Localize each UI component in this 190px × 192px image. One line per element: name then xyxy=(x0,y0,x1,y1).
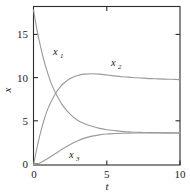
curve-label-x2: x xyxy=(110,57,116,68)
x-tick-label-5: 5 xyxy=(104,168,110,180)
curve-label-x1: x xyxy=(52,46,58,57)
curve-label-x2-subscript: 2 xyxy=(118,63,122,71)
curve-label-x3-subscript: 3 xyxy=(75,155,80,163)
y-tick-label-15: 15 xyxy=(17,28,29,40)
y-tick-label-10: 10 xyxy=(17,72,29,84)
chart-figure: 0 5 10 15 0 5 10 t x x 1 x 2 x 3 xyxy=(0,0,190,192)
y-tick-label-0: 0 xyxy=(23,158,29,170)
curve-label-x1-subscript: 1 xyxy=(60,52,64,60)
y-axis-title: x xyxy=(1,87,13,93)
x-tick-label-0: 0 xyxy=(31,168,37,180)
line-chart-plot: 0 5 10 15 0 5 10 t x x 1 x 2 x 3 xyxy=(0,0,190,192)
curve-label-x3: x xyxy=(68,149,74,160)
x-tick-label-10: 10 xyxy=(175,168,187,180)
chart-background xyxy=(0,0,190,192)
y-tick-label-5: 5 xyxy=(23,115,29,127)
